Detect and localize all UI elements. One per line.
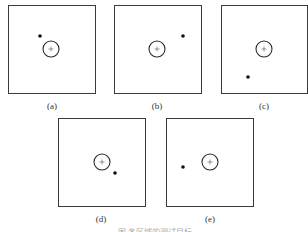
panel-a: (a) xyxy=(9,6,96,112)
panel-frame xyxy=(222,6,308,94)
target-dot xyxy=(181,34,185,38)
panel-frame xyxy=(115,6,202,94)
panel-label: (c) xyxy=(259,101,269,111)
target-dot xyxy=(38,34,42,38)
figure: (a) (b) (c) (d) xyxy=(0,0,308,232)
target-dot xyxy=(181,165,185,169)
panel-label: (d) xyxy=(96,214,107,224)
panel-label: (a) xyxy=(47,101,57,111)
target-dot xyxy=(113,171,117,175)
crosshair-icon xyxy=(49,47,54,52)
figure-caption: 图 各区域的测试目标 xyxy=(118,227,193,232)
crosshair-icon xyxy=(262,47,267,52)
target-dot xyxy=(246,75,250,79)
panel-b: (b) xyxy=(115,6,202,112)
panel-label: (e) xyxy=(205,214,215,224)
panel-d: (d) xyxy=(59,119,146,225)
crosshair-icon xyxy=(208,160,213,165)
crosshair-icon xyxy=(100,160,105,165)
panel-frame xyxy=(9,6,96,94)
panel-label: (b) xyxy=(152,101,163,111)
panel-e: (e) xyxy=(167,119,254,225)
panel-c: (c) xyxy=(222,6,308,112)
crosshair-icon xyxy=(155,47,160,52)
